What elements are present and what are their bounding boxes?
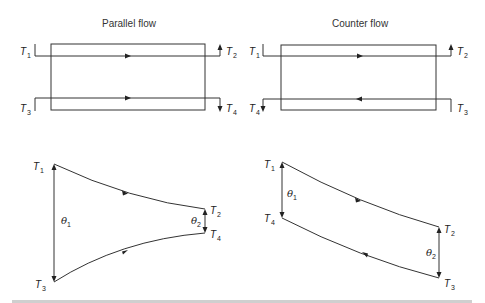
- svg-text:2: 2: [432, 253, 436, 260]
- label-T3: T3: [457, 103, 468, 116]
- svg-text:T: T: [226, 46, 233, 57]
- svg-text:T: T: [35, 279, 42, 290]
- heat-exchanger-diagram: Parallel flow T1 T2 T3 T4 Counter flow T…: [0, 0, 485, 303]
- svg-text:1: 1: [40, 167, 44, 174]
- svg-text:1: 1: [67, 221, 71, 228]
- svg-text:2: 2: [451, 230, 455, 237]
- label-T4: T4: [226, 103, 237, 116]
- svg-text:4: 4: [256, 109, 260, 116]
- label-T3: T3: [20, 103, 31, 116]
- svg-text:T: T: [20, 46, 27, 57]
- svg-text:T: T: [249, 103, 256, 114]
- flow-arrow-icon: [122, 191, 128, 196]
- hot-curve-T1-T2: [282, 162, 439, 227]
- flow-arrow-icon: [122, 250, 128, 255]
- parallel-exchanger-shell: [51, 44, 205, 110]
- label-T3: T3: [444, 278, 455, 291]
- flow-arrow-right-icon: [357, 54, 363, 59]
- svg-text:T: T: [457, 46, 464, 57]
- svg-text:4: 4: [217, 235, 221, 242]
- label-theta1: θ1: [287, 188, 297, 201]
- hot-curve-T1-T2: [54, 164, 205, 209]
- svg-text:3: 3: [42, 285, 46, 292]
- svg-text:2: 2: [217, 211, 221, 218]
- svg-text:T: T: [264, 213, 271, 224]
- label-T2: T2: [226, 46, 237, 59]
- svg-text:3: 3: [27, 109, 31, 116]
- parallel-flow-title: Parallel flow: [102, 18, 157, 29]
- counter-flow-title: Counter flow: [332, 18, 389, 29]
- svg-text:T: T: [444, 278, 451, 289]
- label-T1: T1: [33, 161, 44, 174]
- svg-text:T: T: [33, 161, 40, 172]
- svg-text:T: T: [249, 46, 256, 57]
- svg-text:1: 1: [256, 52, 260, 59]
- parallel-flow-schematic: Parallel flow T1 T2 T3 T4: [20, 18, 237, 116]
- svg-text:2: 2: [233, 52, 237, 59]
- counter-flow-temperature-graph: T1 T4 T2 T3 θ1 θ2: [264, 159, 455, 291]
- svg-text:T: T: [20, 103, 27, 114]
- svg-text:T: T: [210, 205, 217, 216]
- parallel-cold-stream: [35, 98, 220, 111]
- svg-text:T: T: [264, 159, 271, 170]
- arrow-down-icon: [218, 106, 223, 112]
- label-T1: T1: [20, 46, 31, 59]
- arrow-down-icon: [280, 212, 285, 218]
- flow-arrow-left-icon: [356, 97, 362, 102]
- arrow-up-icon: [437, 227, 442, 233]
- svg-text:2: 2: [197, 221, 201, 228]
- label-T1: T1: [249, 46, 260, 59]
- label-T2: T2: [444, 224, 455, 237]
- cold-curve-T3-T4: [282, 218, 439, 278]
- label-theta2: θ2: [426, 247, 436, 260]
- svg-text:4: 4: [271, 219, 275, 226]
- label-T2: T2: [210, 205, 221, 218]
- label-theta1: θ1: [61, 215, 71, 228]
- svg-text:T: T: [226, 103, 233, 114]
- arrow-up-icon: [218, 44, 223, 50]
- arrow-up-icon: [449, 44, 454, 50]
- svg-text:1: 1: [293, 194, 297, 201]
- label-T4: T4: [249, 103, 260, 116]
- arrow-down-icon: [261, 106, 266, 112]
- flow-arrow-right-icon: [125, 54, 131, 59]
- label-T4: T4: [210, 229, 221, 242]
- label-T3: T3: [35, 279, 46, 292]
- label-T2: T2: [457, 46, 468, 59]
- svg-text:3: 3: [464, 109, 468, 116]
- svg-text:1: 1: [271, 165, 275, 172]
- parallel-flow-temperature-graph: T1 T2 T4 T3 θ1 θ2: [33, 161, 221, 292]
- svg-text:T: T: [210, 229, 217, 240]
- svg-text:T: T: [444, 224, 451, 235]
- parallel-hot-stream: [35, 44, 220, 56]
- arrow-up-icon: [203, 209, 208, 215]
- flow-arrow-icon: [362, 252, 368, 258]
- label-T1: T1: [264, 159, 275, 172]
- svg-text:1: 1: [27, 52, 31, 59]
- flow-arrow-right-icon: [125, 96, 131, 101]
- svg-text:4: 4: [233, 109, 237, 116]
- counter-flow-schematic: Counter flow T1 T2 T4 T3: [249, 18, 468, 116]
- arrow-down-icon: [203, 227, 208, 233]
- label-theta2: θ2: [191, 215, 201, 228]
- svg-text:2: 2: [464, 52, 468, 59]
- svg-text:3: 3: [451, 284, 455, 291]
- svg-text:T: T: [457, 103, 464, 114]
- cold-curve-T3-T4: [54, 233, 205, 282]
- label-T4: T4: [264, 213, 275, 226]
